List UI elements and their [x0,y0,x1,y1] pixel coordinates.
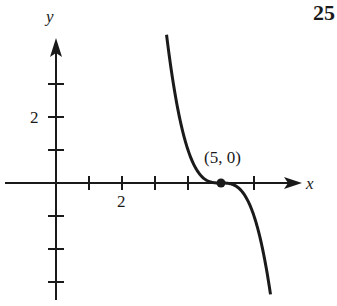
point-marker [217,179,226,188]
x-tick-label: 2 [117,192,126,211]
y-axis-label: y [44,7,54,26]
cubic-graph: 22xy(5, 0) [0,0,337,306]
axes [5,38,302,300]
point-label: (5, 0) [204,148,241,167]
x-axis-label: x [305,174,314,193]
y-tick-label: 2 [30,108,39,127]
